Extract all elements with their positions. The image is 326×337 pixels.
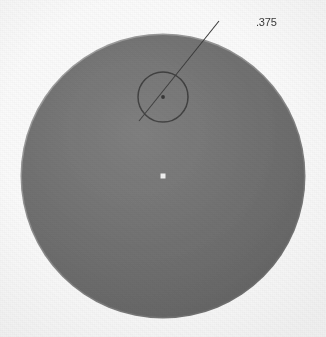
engineering-drawing-canvas: .375 [0,0,326,337]
dimension-label: .375 [256,16,277,28]
drawing-svg: .375 [0,0,326,337]
hole-center-dot [161,95,165,99]
center-mark [161,174,166,179]
